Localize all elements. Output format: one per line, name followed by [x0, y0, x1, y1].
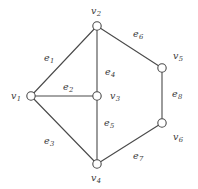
- edge-label-e7-subscript: 7: [139, 155, 143, 163]
- vertex-label-v5: v5: [173, 51, 183, 61]
- vertex-label-v2-subscript: 2: [97, 10, 101, 18]
- edge-label-e6-subscript: 6: [139, 33, 143, 41]
- edge-label-e3-subscript: 3: [50, 140, 54, 148]
- vertex-label-v3-subscript: 3: [116, 95, 120, 103]
- vertex-label-v2: v2: [91, 6, 101, 16]
- edge-label-e1-base: e: [44, 52, 50, 63]
- edge-label-e4: e4: [105, 67, 115, 77]
- vertex-label-v5-subscript: 5: [179, 55, 183, 63]
- edge-label-e7-base: e: [133, 150, 139, 161]
- edge-label-e8: e8: [172, 89, 182, 99]
- edge-label-e1: e1: [44, 53, 54, 63]
- edge-label-e5-subscript: 5: [110, 122, 114, 130]
- graph-vertex-v5: [158, 64, 166, 72]
- edge-label-e5: e5: [104, 118, 114, 128]
- graph-edge-e3: [31, 96, 97, 164]
- vertex-label-v3: v3: [110, 91, 120, 101]
- edge-label-e2: e2: [63, 82, 73, 92]
- vertex-label-v3-base: v: [110, 90, 115, 101]
- edge-label-e2-base: e: [63, 81, 69, 92]
- edge-label-e8-subscript: 8: [178, 93, 182, 101]
- edge-label-e7: e7: [133, 151, 143, 161]
- graph-vertex-v2: [93, 22, 101, 30]
- graph-figure: e1e2e3e4e5e6e7e8v1v2v3v4v5v6: [0, 0, 198, 189]
- edge-label-e6-base: e: [133, 28, 139, 39]
- edge-label-e3-base: e: [44, 135, 50, 146]
- edge-label-e8-base: e: [172, 88, 178, 99]
- edge-label-e1-subscript: 1: [50, 57, 54, 65]
- vertex-label-v1-base: v: [11, 90, 16, 101]
- edge-label-e3: e3: [44, 136, 54, 146]
- graph-vertex-v4: [93, 160, 101, 168]
- graph-vertex-v1: [27, 92, 35, 100]
- vertex-label-v4-base: v: [91, 172, 96, 183]
- vertex-label-v2-base: v: [91, 5, 96, 16]
- graph-edge-e7: [97, 123, 162, 164]
- vertex-label-v6-subscript: 6: [179, 136, 183, 144]
- edge-label-e4-subscript: 4: [111, 71, 115, 79]
- graph-edge-e6: [97, 26, 162, 68]
- vertex-label-v4-subscript: 4: [97, 177, 101, 185]
- edge-label-e5-base: e: [104, 117, 110, 128]
- vertex-label-v6: v6: [173, 132, 183, 142]
- graph-vertex-v6: [158, 119, 166, 127]
- graph-vertex-v3: [93, 92, 101, 100]
- edge-label-e6: e6: [133, 29, 143, 39]
- vertex-label-v4: v4: [91, 173, 101, 183]
- vertex-label-v1-subscript: 1: [17, 95, 21, 103]
- vertex-label-v1: v1: [11, 91, 21, 101]
- vertex-label-v5-base: v: [173, 50, 178, 61]
- graph-canvas: [0, 0, 198, 189]
- edge-label-e4-base: e: [105, 66, 111, 77]
- vertex-label-v6-base: v: [173, 131, 178, 142]
- edge-label-e2-subscript: 2: [69, 86, 73, 94]
